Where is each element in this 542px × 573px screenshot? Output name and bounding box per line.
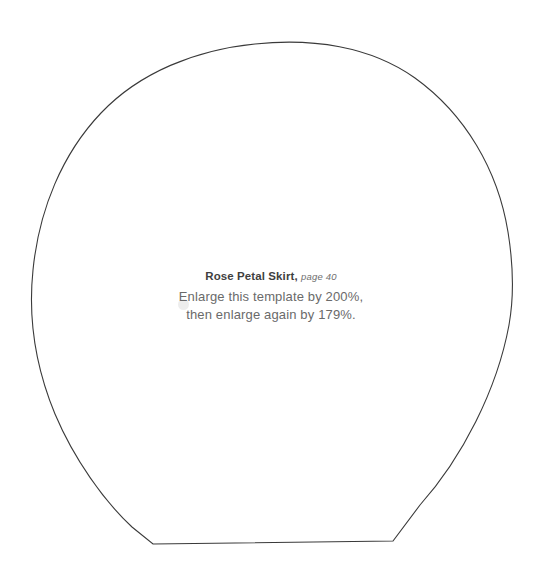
pattern-title: Rose Petal Skirt,	[205, 270, 297, 282]
enlarge-instruction-line-2: then enlarge again by 179%.	[0, 308, 542, 321]
caption-title-line: Rose Petal Skirt, page 40	[0, 271, 542, 283]
pattern-page: Rose Petal Skirt, page 40 Enlarge this t…	[0, 0, 542, 573]
enlarge-instruction-line-1: Enlarge this template by 200%,	[0, 290, 542, 303]
pattern-page-reference: page 40	[301, 271, 337, 282]
caption-block: Rose Petal Skirt, page 40 Enlarge this t…	[0, 271, 542, 326]
